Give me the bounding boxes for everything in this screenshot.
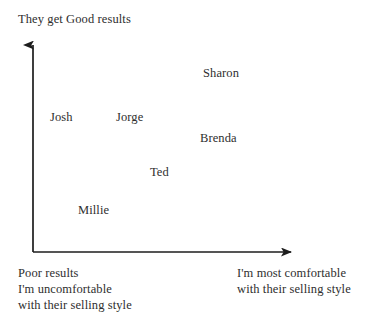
y-axis-top-label: They get Good results — [18, 12, 131, 27]
point-label-josh[interactable]: Josh — [50, 110, 73, 124]
point-label-brenda[interactable]: Brenda — [200, 131, 237, 145]
point-label-sharon[interactable]: Sharon — [203, 66, 239, 80]
caption-bottom-right: I'm most comfortable with their selling … — [237, 265, 351, 297]
caption-bottom-right-line-2: with their selling style — [237, 281, 351, 297]
point-label-jorge[interactable]: Jorge — [116, 110, 143, 124]
diagram-canvas: They get Good results Sharon Josh Jorge … — [0, 0, 376, 334]
caption-bottom-right-line-1: I'm most comfortable — [237, 265, 351, 281]
caption-bottom-left-line-3: with their selling style — [18, 297, 132, 313]
caption-bottom-left: Poor results I'm uncomfortable with thei… — [18, 265, 132, 313]
caption-bottom-left-line-2: I'm uncomfortable — [18, 281, 132, 297]
caption-bottom-left-line-1: Poor results — [18, 265, 132, 281]
point-label-millie[interactable]: Millie — [78, 203, 109, 217]
point-label-ted[interactable]: Ted — [150, 165, 169, 179]
